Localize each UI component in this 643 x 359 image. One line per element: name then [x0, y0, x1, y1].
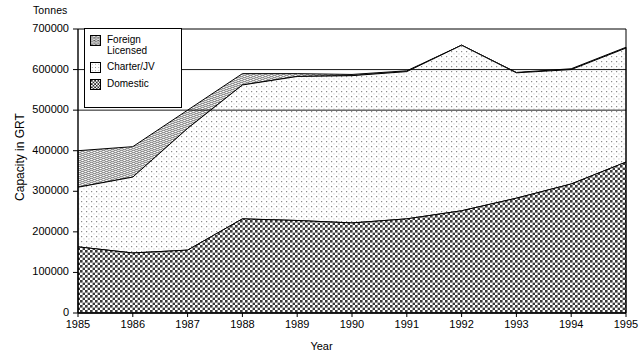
legend-item-foreign-licensed: Foreign Licensed	[90, 34, 181, 56]
legend-swatch-charter-jv	[90, 62, 101, 73]
x-tick-label-1986: 1986	[108, 318, 158, 330]
x-tick-label-1990: 1990	[327, 318, 377, 330]
y-tick-label-100000: 100000	[7, 265, 69, 277]
x-axis-label: Year	[0, 340, 643, 352]
x-tick-label-1987: 1987	[163, 318, 213, 330]
x-tick-label-1994: 1994	[546, 318, 596, 330]
y-tick-label-700000: 700000	[7, 22, 69, 34]
y-tick-label-300000: 300000	[7, 184, 69, 196]
legend-swatch-domestic	[90, 79, 101, 90]
x-tick-label-1985: 1985	[53, 318, 103, 330]
unit-note: Tonnes	[33, 4, 67, 16]
x-tick-label-1991: 1991	[382, 318, 432, 330]
y-tick-label-0: 0	[7, 306, 69, 318]
legend-label-foreign-licensed: Foreign Licensed	[107, 34, 147, 56]
legend: Foreign Licensed Charter/JV Domestic	[84, 28, 182, 108]
stacked-area-chart: Tonnes Capacity in GRT Year	[0, 0, 643, 359]
y-tick-label-200000: 200000	[7, 225, 69, 237]
y-tick-label-400000: 400000	[7, 144, 69, 156]
legend-label-charter-jv: Charter/JV	[107, 61, 155, 72]
y-tick-label-500000: 500000	[7, 103, 69, 115]
y-tick-label-600000: 600000	[7, 63, 69, 75]
x-tick-label-1989: 1989	[272, 318, 322, 330]
legend-swatch-foreign-licensed	[90, 35, 101, 46]
x-tick-label-1995: 1995	[601, 318, 643, 330]
x-tick-label-1992: 1992	[437, 318, 487, 330]
legend-item-domestic: Domestic	[90, 78, 181, 90]
x-tick-label-1988: 1988	[217, 318, 267, 330]
legend-item-charter-jv: Charter/JV	[90, 61, 181, 73]
legend-label-domestic: Domestic	[107, 78, 149, 89]
x-tick-label-1993: 1993	[491, 318, 541, 330]
